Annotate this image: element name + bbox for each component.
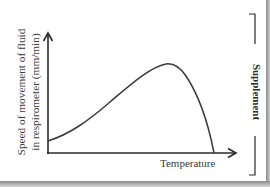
x-axis-label: Temperature xyxy=(160,157,215,169)
supplement-bracket-top xyxy=(249,14,255,44)
supplement-label: Supplement xyxy=(251,64,263,120)
page-frame-bottom xyxy=(0,181,270,187)
data-curve xyxy=(48,64,214,153)
supplement-bracket-bottom xyxy=(249,136,255,175)
figure-page: Speed of movement of fluid in respiromet… xyxy=(0,0,266,181)
y-axis-label-line-1: Speed of movement of fluid xyxy=(14,29,28,156)
y-axis-label-line-2: in respirometer (mm/min) xyxy=(28,29,42,156)
page-frame-right xyxy=(266,0,270,183)
y-axis-label: Speed of movement of fluid in respiromet… xyxy=(14,29,42,156)
